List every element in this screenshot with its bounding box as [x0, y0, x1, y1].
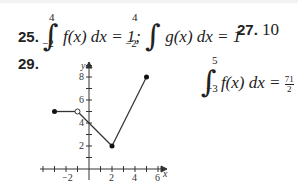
- closed-point: [144, 75, 149, 80]
- svg-text:−2: −2: [62, 172, 73, 183]
- svg-text:6: 6: [155, 172, 160, 183]
- function-graph: y x −2 2 4 6 2 4 6 8: [0, 0, 298, 187]
- open-point: [75, 109, 80, 114]
- svg-text:4: 4: [132, 172, 137, 183]
- closed-point: [52, 109, 57, 114]
- svg-text:4: 4: [79, 117, 84, 128]
- svg-text:x: x: [162, 168, 168, 179]
- svg-text:6: 6: [79, 94, 84, 105]
- svg-text:y: y: [80, 60, 86, 71]
- svg-text:8: 8: [79, 71, 84, 82]
- svg-text:2: 2: [109, 172, 114, 183]
- closed-point: [110, 144, 115, 149]
- svg-text:2: 2: [79, 140, 84, 151]
